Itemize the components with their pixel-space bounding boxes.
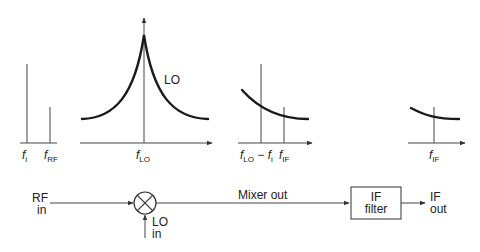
image-freq-label: fLO − fi (240, 148, 273, 164)
lo-phase-noise-curve (82, 35, 208, 119)
mixer-output-spectrum-panel: fLO − fi fIF (238, 64, 312, 164)
mixer-multiply-icon (134, 192, 156, 214)
lo-spectrum-panel: LO fLO (80, 18, 212, 164)
if-filter-label-2: filter (365, 202, 388, 216)
if-noise-curve (411, 108, 459, 119)
if-out-label-2: out (430, 202, 447, 216)
mixer-noise-curve (242, 90, 308, 119)
rf-in-label-2: in (37, 203, 46, 217)
f-lo-label: fLO (136, 148, 150, 164)
superheterodyne-diagram: fi fRF LO fLO fLO − fi fIF fIF RF in (0, 0, 480, 252)
mixer-out-label: Mixer out (238, 188, 288, 202)
if-freq-label: fIF (429, 148, 440, 164)
block-diagram: RF in LO in Mixer out IF filter IF out (32, 187, 447, 241)
f-i-label: fi (22, 148, 27, 164)
lo-curve-label: LO (164, 73, 180, 87)
if-output-spectrum-panel: fIF (408, 107, 465, 164)
f-if-label: fIF (279, 148, 290, 164)
lo-in-label-2: in (152, 227, 161, 241)
f-rf-label: fRF (44, 148, 58, 164)
input-spectrum-panel: fi fRF (20, 64, 58, 164)
